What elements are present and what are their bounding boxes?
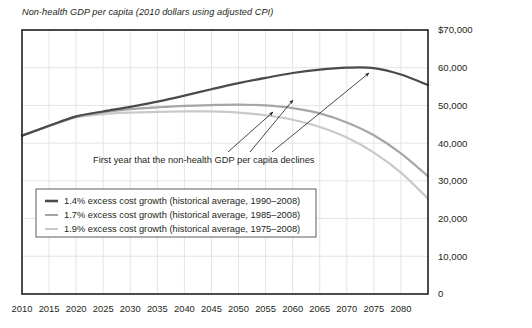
legend-label-3: 1.9% excess cost growth (historical aver… bbox=[64, 224, 300, 234]
x-tick-label: 2045 bbox=[201, 303, 222, 314]
legend: 1.4% excess cost growth (historical aver… bbox=[36, 189, 316, 237]
x-tick-label: 2060 bbox=[282, 303, 303, 314]
x-tick-label: 2055 bbox=[255, 303, 276, 314]
x-tick-label: 2040 bbox=[174, 303, 195, 314]
y-tick-label: 30,000 bbox=[438, 175, 467, 186]
y-tick-label: 60,000 bbox=[438, 62, 467, 73]
x-tick-label: 2015 bbox=[39, 303, 60, 314]
annotation-label: First year that the non-health GDP per c… bbox=[93, 155, 315, 165]
y-tick-label: 20,000 bbox=[438, 213, 467, 224]
x-tick-label: 2075 bbox=[363, 303, 384, 314]
x-axis-labels: 2010201520202025203020352040204520502055… bbox=[12, 303, 412, 314]
x-tick-label: 2050 bbox=[228, 303, 249, 314]
y-tick-label: 10,000 bbox=[438, 251, 467, 262]
legend-label-2: 1.7% excess cost growth (historical aver… bbox=[64, 210, 300, 220]
x-tick-label: 2035 bbox=[147, 303, 168, 314]
x-tick-label: 2010 bbox=[12, 303, 33, 314]
y-tick-label: $70,000 bbox=[438, 24, 473, 35]
y-tick-label: 50,000 bbox=[438, 100, 467, 111]
x-tick-label: 2020 bbox=[66, 303, 87, 314]
y-axis-labels: 010,00020,00030,00040,00050,00060,000$70… bbox=[438, 24, 473, 299]
y-tick-label: 0 bbox=[438, 288, 443, 299]
x-tick-label: 2065 bbox=[309, 303, 330, 314]
x-tick-label: 2080 bbox=[391, 303, 412, 314]
line-chart-plot: 010,00020,00030,00040,00050,00060,000$70… bbox=[0, 0, 532, 328]
x-tick-label: 2030 bbox=[120, 303, 141, 314]
y-tick-label: 40,000 bbox=[438, 138, 467, 149]
x-tick-label: 2070 bbox=[336, 303, 357, 314]
chart-figure: Non-health GDP per capita (2010 dollars … bbox=[0, 0, 532, 328]
legend-label-1: 1.4% excess cost growth (historical aver… bbox=[64, 196, 300, 206]
x-tick-label: 2025 bbox=[93, 303, 114, 314]
